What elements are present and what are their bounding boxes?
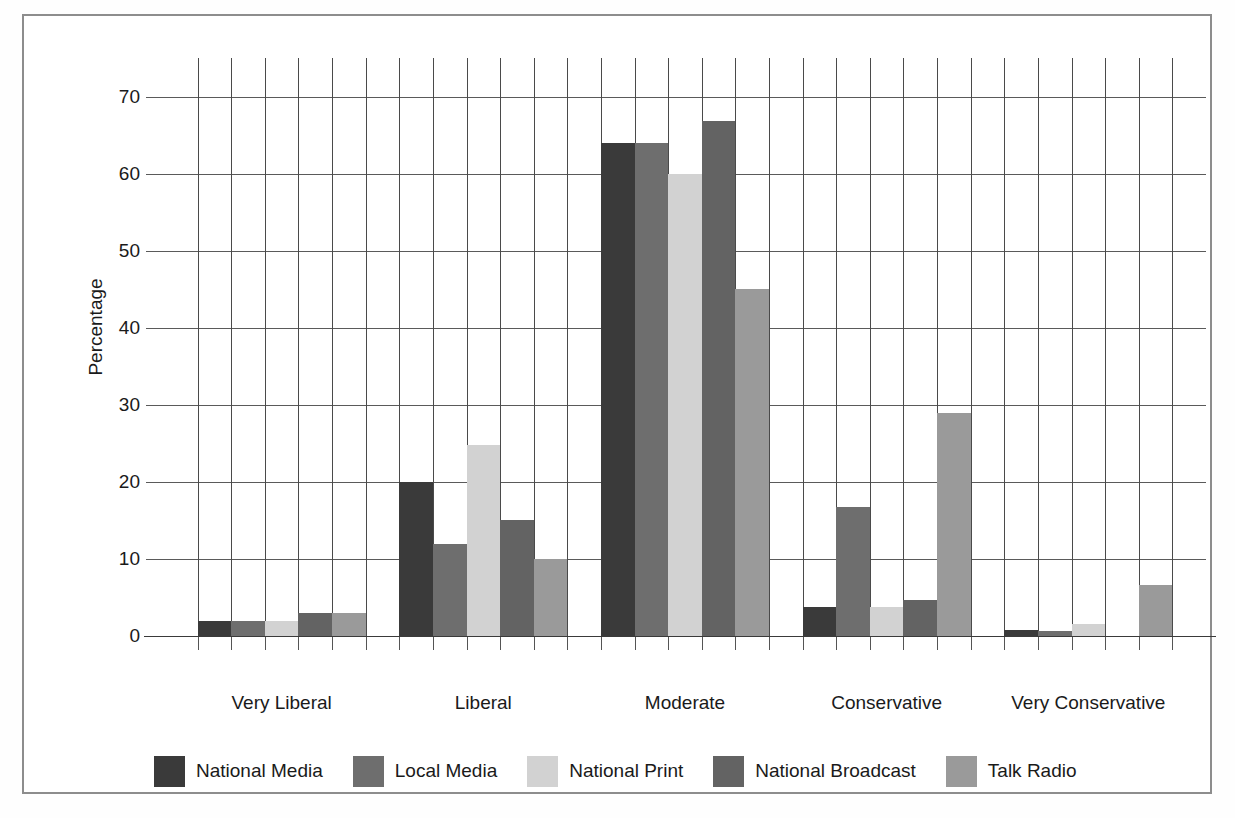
legend-item: National Broadcast [713,756,946,787]
y-tick-mark [146,328,164,329]
legend-swatch [713,756,744,787]
gridline-vertical [198,58,199,646]
y-tick-label: 30 [82,395,140,414]
bar [702,121,736,636]
gridline-vertical [567,58,568,646]
gridline-vertical [1004,58,1005,646]
x-tick-mark [1072,637,1073,650]
legend-item: Talk Radio [946,756,1107,787]
x-tick-mark [1172,637,1173,650]
x-tick-mark [803,637,804,650]
x-tick-mark [601,637,602,650]
bar [332,613,366,636]
y-tick-label: 0 [82,626,140,645]
x-tick-mark [769,637,770,650]
x-tick-mark [836,637,837,650]
bar [1072,624,1106,636]
bar [1139,585,1173,636]
bar [803,607,837,636]
gridline-vertical [366,58,367,646]
x-tick-mark [231,637,232,650]
y-tick-mark [146,174,164,175]
figure-container: Percentage 010203040506070 Very LiberalL… [0,0,1235,818]
y-tick-mark [146,405,164,406]
y-tick-label: 60 [82,164,140,183]
bar [467,445,501,636]
gridline-vertical [971,58,972,646]
plot-area [164,58,1206,636]
y-tick-label: 70 [82,87,140,106]
x-tick-mark [1139,637,1140,650]
bar [870,607,904,636]
legend-swatch [353,756,384,787]
legend-label: National Broadcast [755,760,916,782]
bar [635,143,669,636]
chart-legend: National MediaLocal MediaNational PrintN… [154,751,1107,791]
x-tick-mark [635,637,636,650]
y-tick-mark [146,559,164,560]
x-tick-mark [500,637,501,650]
legend-item: Local Media [353,756,527,787]
bar [668,174,702,636]
gridline-vertical [1072,58,1073,646]
legend-item: National Print [527,756,713,787]
y-tick-label: 20 [82,472,140,491]
x-tick-mark [399,637,400,650]
y-tick-mark [146,97,164,98]
gridline-vertical [231,58,232,646]
bar [937,413,971,636]
x-tick-mark [702,637,703,650]
x-category-label: Very Conservative [948,692,1228,714]
gridline-vertical [903,58,904,646]
y-tick-label: 40 [82,318,140,337]
x-tick-mark [332,637,333,650]
x-tick-mark [534,637,535,650]
x-tick-mark [467,637,468,650]
legend-label: National Print [569,760,683,782]
x-tick-mark [937,637,938,650]
y-tick-label: 50 [82,241,140,260]
bar [433,544,467,636]
figure-frame: Percentage 010203040506070 Very LiberalL… [22,14,1212,794]
gridline-vertical [265,58,266,646]
y-tick-mark [146,482,164,483]
x-tick-mark [971,637,972,650]
x-axis-baseline [144,636,1216,637]
gridline-vertical [1172,58,1173,646]
legend-swatch [527,756,558,787]
bar [265,621,299,636]
x-tick-mark [198,637,199,650]
gridline-vertical [332,58,333,646]
x-tick-mark [870,637,871,650]
x-tick-mark [567,637,568,650]
x-tick-mark [1004,637,1005,650]
gridline-horizontal [164,97,1206,98]
bar [231,621,265,636]
bar [836,507,870,636]
y-tick-mark [146,251,164,252]
bar [735,289,769,636]
gridline-vertical [1105,58,1106,646]
gridline-vertical [1139,58,1140,646]
gridline-vertical [870,58,871,646]
x-tick-mark [366,637,367,650]
gridline-vertical [1038,58,1039,646]
gridline-vertical [298,58,299,646]
bar [399,482,433,636]
legend-label: National Media [196,760,323,782]
legend-item: National Media [154,756,353,787]
bar [903,600,937,636]
x-tick-mark [298,637,299,650]
x-tick-mark [1105,637,1106,650]
x-tick-mark [903,637,904,650]
legend-swatch [154,756,185,787]
bar [601,143,635,636]
bar [298,613,332,636]
gridline-vertical [803,58,804,646]
gridline-vertical [534,58,535,646]
x-tick-mark [265,637,266,650]
legend-label: Local Media [395,760,497,782]
x-tick-mark [668,637,669,650]
gridline-vertical [769,58,770,646]
bar [500,520,534,636]
